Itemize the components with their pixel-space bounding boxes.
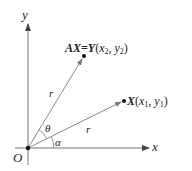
rotation-diagram: y x O AX=Y(x2,y2) X(x1,y1) r r θ α xyxy=(0,0,192,171)
origin-label: O xyxy=(13,150,23,165)
origin-point xyxy=(26,146,30,150)
point-y-label: AX=Y(x2,y2) xyxy=(64,41,128,56)
y-axis-label: y xyxy=(20,7,28,22)
x-axis-label: x xyxy=(151,139,158,154)
alpha-arc xyxy=(51,137,54,149)
lower-r-label: r xyxy=(86,123,91,135)
alpha-label: α xyxy=(55,136,61,148)
point-x xyxy=(122,99,126,103)
upper-r-label: r xyxy=(49,87,54,99)
point-x-label: X(x1,y1) xyxy=(126,94,168,109)
theta-label: θ xyxy=(45,122,51,134)
